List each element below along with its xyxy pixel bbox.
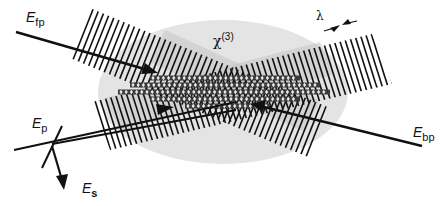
signal-ray: [52, 146, 62, 180]
forward-pump-label: Efp: [26, 9, 45, 28]
signal-label: Es: [82, 180, 97, 199]
fwm-diagram: λ χ(3) Efp Ebp Ep Es: [0, 0, 447, 206]
probe-label: Ep: [32, 115, 47, 134]
backward-pump-label: Ebp: [413, 124, 435, 143]
wavelength-label: λ: [316, 9, 324, 23]
wavelength-arrow-right-icon: [342, 19, 351, 25]
signal-arrowhead-icon: [56, 174, 68, 190]
